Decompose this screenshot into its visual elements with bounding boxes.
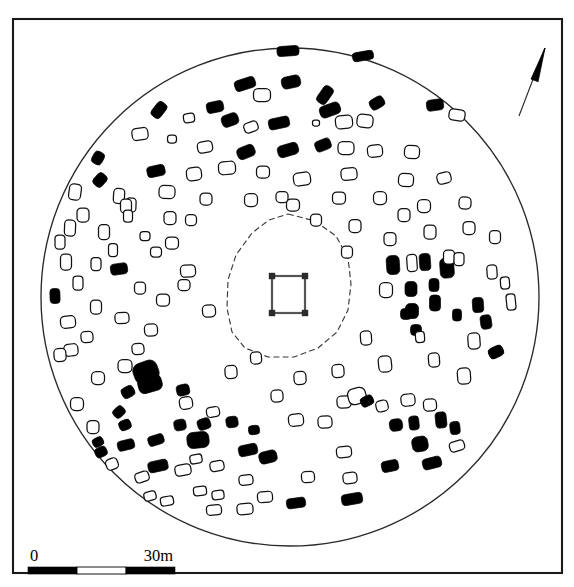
- scale-bar-segment: [77, 567, 126, 574]
- stone-hole: [239, 474, 254, 485]
- scale-bar-start-label: 0: [30, 546, 38, 565]
- stone-hole: [166, 237, 179, 249]
- standing-stone: [386, 255, 400, 275]
- stone-hole: [293, 171, 312, 186]
- figure-frame: [13, 19, 562, 573]
- stone-hole: [448, 108, 465, 121]
- stone-hole: [64, 220, 76, 236]
- stone-hole: [200, 193, 212, 205]
- stone-hole: [180, 264, 196, 277]
- stone-hole: [384, 233, 396, 246]
- stone-hole: [444, 250, 455, 264]
- stone-hole: [206, 504, 222, 515]
- stone-hole: [77, 208, 89, 222]
- scale-bar-segment: [28, 567, 77, 574]
- standing-stone: [429, 279, 439, 292]
- stone-hole: [374, 192, 387, 205]
- standing-stone: [472, 297, 484, 313]
- scale-bar-segments: [28, 567, 175, 574]
- stone-hole: [99, 225, 110, 240]
- stone-hole: [271, 390, 284, 403]
- stone-hole: [164, 212, 176, 225]
- stone-hole: [189, 454, 202, 465]
- scale-bar-end-label: 30m: [144, 546, 174, 565]
- site-plan-canvas: 0 30m: [0, 0, 574, 587]
- stone-hole: [342, 246, 353, 258]
- stone-hole: [186, 215, 197, 226]
- stone-hole: [313, 120, 320, 126]
- stone-hole: [151, 247, 162, 257]
- stone-hole: [500, 277, 510, 290]
- stone-hole: [54, 348, 67, 362]
- stone-hole: [144, 324, 158, 337]
- stone-hole: [60, 315, 76, 329]
- stone-hole: [311, 214, 322, 226]
- stone-hole: [287, 199, 300, 211]
- stone-hole: [418, 200, 431, 213]
- stone-hole: [406, 254, 417, 272]
- stone-hole: [209, 460, 225, 472]
- stone-hole: [91, 300, 102, 314]
- standing-stone: [50, 288, 61, 303]
- standing-stone: [426, 98, 444, 111]
- standing-stone: [401, 309, 412, 320]
- stone-hole: [91, 258, 101, 271]
- scale-bar-segment: [126, 567, 175, 574]
- stone-hole: [118, 360, 132, 373]
- stone-hole: [288, 413, 304, 427]
- posthole-marker: [269, 310, 275, 316]
- stone-hole: [356, 114, 373, 129]
- stone-hole: [87, 421, 99, 434]
- stone-hole: [168, 135, 177, 143]
- stone-hole: [423, 399, 437, 412]
- standing-stone: [110, 262, 128, 275]
- stone-hole: [178, 280, 190, 291]
- stone-hole: [237, 503, 254, 515]
- posthole-marker: [302, 310, 308, 316]
- standing-stone: [277, 45, 300, 57]
- stone-hole: [186, 167, 202, 181]
- stone-hole: [454, 253, 464, 266]
- stone-hole: [68, 183, 82, 201]
- stone-hole: [193, 486, 207, 496]
- stone-hole: [197, 140, 214, 153]
- standing-stone: [248, 425, 260, 435]
- stone-hole: [378, 355, 393, 372]
- stone-hole: [338, 142, 354, 155]
- stone-hole: [404, 145, 420, 159]
- stone-hole: [160, 495, 174, 506]
- standing-stone: [225, 416, 238, 429]
- stone-hole: [202, 305, 216, 318]
- stone-hole: [459, 197, 471, 209]
- standing-stone: [405, 282, 417, 297]
- stone-hole: [336, 446, 352, 459]
- stone-hole: [55, 235, 65, 249]
- stone-hole: [124, 210, 133, 222]
- stone-hole: [92, 372, 105, 385]
- standing-stone: [411, 435, 429, 453]
- stone-hole: [218, 161, 236, 175]
- stone-hole: [332, 364, 345, 378]
- standing-stone: [453, 309, 462, 321]
- stone-hole: [398, 173, 414, 187]
- stone-hole: [183, 113, 195, 123]
- stone-hole: [257, 166, 270, 178]
- stone-hole: [457, 368, 471, 385]
- standing-stone: [286, 497, 306, 510]
- stone-hole: [428, 353, 440, 368]
- stone-hole: [109, 244, 118, 257]
- stone-hole: [360, 331, 372, 346]
- stone-hole: [335, 115, 353, 130]
- stone-hole: [179, 396, 194, 410]
- stone-hole: [333, 192, 346, 204]
- standing-stone: [173, 419, 187, 432]
- stone-hole: [318, 416, 333, 429]
- standing-stone: [430, 295, 441, 311]
- stone-hole: [135, 282, 146, 294]
- stone-hole: [73, 276, 83, 290]
- stone-hole: [349, 220, 361, 233]
- stone-hole: [463, 222, 475, 235]
- stone-hole: [212, 490, 225, 500]
- stone-hole: [380, 283, 393, 298]
- standing-stone: [419, 253, 431, 271]
